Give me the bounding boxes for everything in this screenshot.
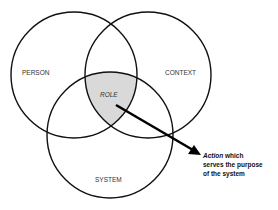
system-label: SYSTEM	[95, 176, 122, 183]
action-arrowhead-icon	[188, 145, 201, 155]
action-note-line3: of the system	[203, 170, 245, 178]
action-note-line2: serves the purpose	[203, 161, 263, 169]
action-line1-rest: which	[223, 152, 243, 159]
action-arrow-line	[116, 105, 193, 150]
person-label: PERSON	[22, 69, 50, 76]
venn-diagram: PERSON CONTEXT SYSTEM ROLE Action which …	[0, 0, 278, 210]
context-label: CONTEXT	[165, 69, 196, 76]
action-note-line1: Action which	[202, 152, 243, 159]
action-emphasis: Action	[202, 152, 223, 159]
role-label: ROLE	[100, 91, 118, 98]
